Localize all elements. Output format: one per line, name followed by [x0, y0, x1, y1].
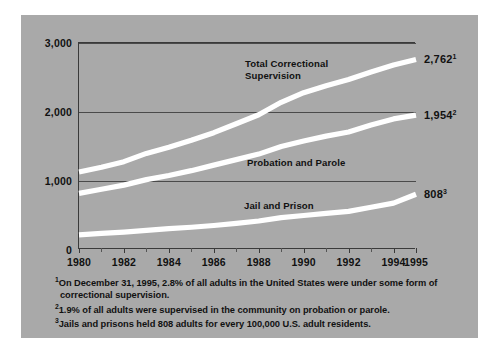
- x-axis-tick-label: 1984: [157, 256, 181, 268]
- footnote-text: On December 31, 1995, 2.8% of all adults…: [59, 278, 438, 288]
- x-axis-tick-label: 1980: [67, 256, 91, 268]
- footnote-text: 1.9% of all adults were supervised in th…: [59, 305, 390, 315]
- series-line-1: [79, 115, 416, 193]
- chart-figure: 01,0002,0003,000 19801982198419861988199…: [21, 15, 478, 338]
- footnote-text: Jails and prisons held 808 adults for ev…: [59, 319, 371, 329]
- x-axis-tick-label: 1992: [337, 256, 361, 268]
- x-axis-tick-label: 1995: [404, 256, 428, 268]
- y-axis-tick-label: 0: [66, 244, 72, 256]
- plot-area: 01,0002,0003,000 19801982198419861988199…: [78, 42, 415, 249]
- y-axis-tick-label: 3,000: [45, 37, 72, 49]
- footnote-1: 1On December 31, 1995, 2.8% of all adult…: [55, 276, 465, 302]
- x-axis-tick-label: 1990: [292, 256, 316, 268]
- endpoint-value-label-1: 1,9542: [424, 109, 457, 122]
- y-axis-tick-label: 2,000: [45, 106, 72, 118]
- y-axis-tick-label: 1,000: [45, 175, 72, 187]
- footnotes-block: 1On December 31, 1995, 2.8% of all adult…: [55, 276, 465, 331]
- endpoint-value: 1,954: [424, 110, 453, 122]
- x-axis-tick-label: 1994: [381, 256, 405, 268]
- series-label-line-1: Total Correctional: [245, 58, 328, 69]
- endpoint-footnote-marker: 1: [453, 53, 457, 60]
- footnote-text-continued: correctional supervision.: [55, 289, 465, 301]
- x-axis-tick-major: [416, 248, 417, 253]
- footnote-3: 3Jails and prisons held 808 adults for e…: [55, 317, 465, 330]
- endpoint-value: 2,762: [424, 54, 453, 66]
- x-axis-tick-label: 1982: [112, 256, 136, 268]
- series-label-line-2: Supervision: [245, 70, 301, 81]
- endpoint-footnote-marker: 3: [443, 188, 447, 195]
- endpoint-value: 808: [424, 189, 443, 201]
- footnote-2: 21.9% of all adults were supervised in t…: [55, 303, 465, 316]
- endpoint-value-label-2: 8083: [424, 188, 447, 201]
- endpoint-footnote-marker: 2: [453, 109, 457, 116]
- series-label-jail-and-prison: Jail and Prison: [244, 200, 314, 212]
- series-label-total-correctional-supervision: Total Correctional Supervision: [245, 58, 328, 82]
- x-axis-tick-label: 1986: [202, 256, 226, 268]
- series-label-probation-and-parole: Probation and Parole: [247, 157, 346, 169]
- endpoint-value-label-0: 2,7621: [424, 53, 457, 66]
- x-axis-tick-label: 1988: [247, 256, 271, 268]
